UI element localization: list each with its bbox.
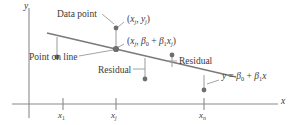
tick-label-x-1: x1 xyxy=(58,111,65,120)
residual-callout-left: Residual xyxy=(98,66,131,76)
plus-sign: + xyxy=(149,36,159,46)
leader-equation xyxy=(207,80,219,84)
leader-data-point xyxy=(102,14,114,24)
data-point-callout: Data point xyxy=(57,10,97,20)
eq-x: x xyxy=(262,71,266,81)
paren-close: ) xyxy=(173,36,176,46)
regression-residual-diagram: y x Data point Point on line Residual Re… xyxy=(0,0,292,125)
data-point-3 xyxy=(143,77,148,82)
residual-callout-right: Residual xyxy=(179,57,212,67)
data-point-j xyxy=(114,26,119,31)
data-point-n xyxy=(202,88,207,93)
eq-plus: + xyxy=(244,71,254,81)
fitted-point-j xyxy=(113,46,119,52)
y-axis-label: y xyxy=(24,2,28,12)
tick-label-x-j: xj xyxy=(111,111,117,120)
observed-point-label: (xj, yj) xyxy=(127,15,150,25)
leader-observed-label xyxy=(118,22,124,27)
tick-label-x-n: xn xyxy=(199,111,206,120)
fitted-point-label: (xj, β0 + β1xj) xyxy=(127,37,176,47)
paren-close: ) xyxy=(147,14,150,24)
tick-1-sub: 1 xyxy=(62,115,65,121)
eq-equals: = xyxy=(226,71,236,81)
tick-n-sub: n xyxy=(203,115,206,121)
leader-point-on-line xyxy=(79,50,113,56)
data-point-4 xyxy=(170,53,175,58)
point-on-line-callout: Point on line xyxy=(29,53,78,63)
regression-equation-label: y = β0 + β1x xyxy=(222,72,266,82)
tick-j-sub: j xyxy=(115,115,117,121)
x-axis-label: x xyxy=(281,97,285,107)
